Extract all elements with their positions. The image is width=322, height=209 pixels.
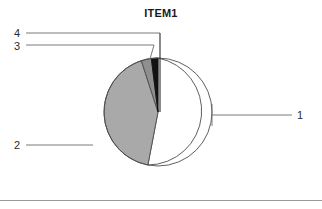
chart-canvas: ITEM1 1 2 3 4 [0, 0, 322, 209]
leader-line-1 [212, 104, 292, 126]
pie-label-3: 3 [14, 40, 20, 52]
pie-chart-graphic [0, 0, 322, 209]
footer-divider [0, 200, 322, 201]
pie-label-1: 1 [297, 109, 303, 121]
pie-label-2: 2 [14, 139, 20, 151]
pie-label-4: 4 [14, 27, 20, 39]
leader-line-3 [26, 45, 154, 59]
